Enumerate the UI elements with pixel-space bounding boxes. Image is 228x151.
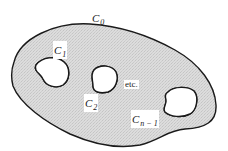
- label-c1-sub: 1: [62, 50, 66, 59]
- label-c1-main: C: [54, 44, 61, 56]
- label-c0-sub: 0: [100, 18, 104, 27]
- label-cn-1: Cn − 1: [131, 110, 159, 128]
- label-cn-1-sub: n − 1: [140, 119, 157, 128]
- label-c0: C0: [92, 9, 104, 27]
- region-diagram: [0, 0, 228, 151]
- label-c0-main: C: [92, 12, 99, 24]
- hole-contour-c2: [92, 66, 117, 93]
- label-c1: C1: [53, 41, 67, 59]
- label-c2-sub: 2: [93, 103, 97, 112]
- etc-label: etc.: [124, 80, 139, 89]
- label-c2: C2: [84, 94, 98, 112]
- hole-contour-cn-1: [164, 87, 197, 116]
- label-c2-main: C: [85, 97, 92, 109]
- label-cn-1-main: C: [132, 113, 139, 125]
